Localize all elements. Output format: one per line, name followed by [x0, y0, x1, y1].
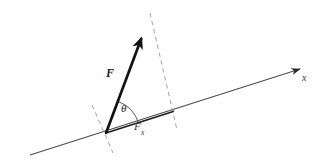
vector-decomposition-figure: F θ Fx x [0, 0, 323, 165]
x-axis-label: x [302, 73, 306, 83]
origin-point [105, 132, 107, 134]
force-vector-label: F [106, 67, 114, 79]
origin-perpendicular-dashed-line [92, 105, 113, 153]
x-component-base: F [134, 120, 141, 132]
x-component-label: Fx [134, 121, 144, 135]
figure-canvas [0, 0, 323, 165]
x-component-subscript: x [141, 128, 144, 137]
x-axis-line [30, 69, 300, 155]
force-vector-line [106, 38, 142, 133]
angle-theta-label: θ [121, 103, 126, 114]
